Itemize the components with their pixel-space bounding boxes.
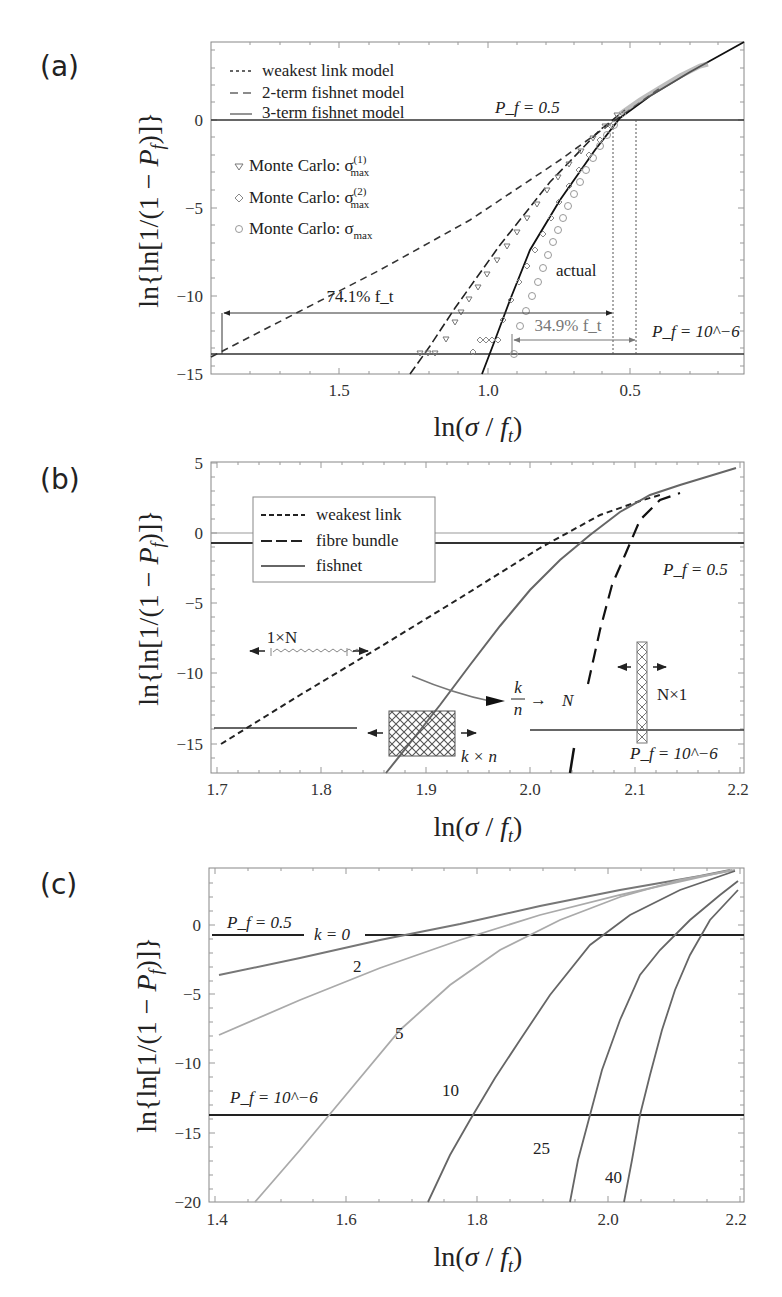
annotation-pf-small-c: P_f = 10^−6 xyxy=(229,1088,318,1107)
label-Nx1: N×1 xyxy=(657,685,687,704)
ylabel-b: ln{ln[1/(1 − Pf)]} xyxy=(133,510,168,705)
ytick-b-m10: −10 xyxy=(176,664,203,683)
xlabel-b: ln(σ / ft) xyxy=(434,811,523,846)
ytick-c-m20: −20 xyxy=(174,1193,201,1212)
mesh-kxn-diagram: k × n xyxy=(368,711,497,766)
series-c-k40 xyxy=(624,890,738,1202)
plot-b: 5 0 −5 −10 −15 1.7 1.8 1.9 2.0 2.1 2.2 w… xyxy=(133,454,749,846)
xtick-c-1.8: 1.8 xyxy=(466,1210,487,1229)
xtick-b-2.2: 2.2 xyxy=(727,780,748,799)
arrowhead-icon xyxy=(486,696,505,706)
ytick-c-m15: −15 xyxy=(174,1124,201,1143)
legend-b-fishnet: fishnet xyxy=(316,556,363,575)
series-c-k2 xyxy=(219,870,732,1035)
xtick-b-2.0: 2.0 xyxy=(519,780,540,799)
legend-triangle-icon xyxy=(235,164,243,170)
xtick-b-2.1: 2.1 xyxy=(624,780,645,799)
chain-icon xyxy=(273,649,361,652)
ylabel-c: ln{ln[1/(1 − Pf)]} xyxy=(131,937,166,1132)
legend-3term: 3-term fishnet model xyxy=(262,103,405,122)
curved-arrow xyxy=(412,676,490,701)
legend-b-fibre-bundle: fibre bundle xyxy=(316,531,399,550)
legend-b: weakest link fibre bundle fishnet xyxy=(253,497,435,582)
ytick-b-5: 5 xyxy=(195,454,204,473)
plot-c: 0 −5 −10 −15 −20 1.4 1.6 1.8 2.0 2.2 P_f… xyxy=(131,868,747,1276)
ytick-c-0: 0 xyxy=(193,916,202,935)
xlabel-c: ln(σ / ft) xyxy=(434,1241,523,1276)
mesh-icon xyxy=(389,711,455,756)
curve-label-k25: 25 xyxy=(533,1139,550,1158)
curve-label-k0: k = 0 xyxy=(314,925,351,944)
chain-1xN-diagram: 1×N xyxy=(250,628,368,656)
series-c-k25 xyxy=(570,881,738,1202)
ytick-a-m10: −10 xyxy=(176,287,203,306)
ytick-b-0: 0 xyxy=(195,524,204,543)
bundle-Nx1-diagram: N×1 xyxy=(618,642,687,743)
ytick-a-m5: −5 xyxy=(185,199,203,218)
plot-a: 0 −5 −10 −15 1.5 1.0 0.5 xyxy=(133,42,744,446)
series-mc-cluster xyxy=(620,64,708,114)
label-limit-arrow: → xyxy=(530,690,547,709)
legend-mc-sigmamax: Monte Carlo: σmax xyxy=(249,219,373,241)
xtick-c-1.4: 1.4 xyxy=(206,1210,228,1229)
series-c-k5 xyxy=(255,870,735,1202)
curve-label-k5: 5 xyxy=(395,1024,404,1043)
legend-b-weakest-link: weakest link xyxy=(316,505,402,524)
xlabel-a: ln(σ / ft) xyxy=(434,411,523,446)
xtick-a-1.0: 1.0 xyxy=(477,381,498,400)
xtick-a-1.5: 1.5 xyxy=(328,381,349,400)
xtick-b-1.7: 1.7 xyxy=(206,780,228,799)
label-n: n xyxy=(514,700,523,719)
curve-label-k2: 2 xyxy=(353,957,362,976)
ytick-b-m5: −5 xyxy=(185,594,203,613)
xtick-c-1.6: 1.6 xyxy=(335,1210,356,1229)
label-kxn: k × n xyxy=(461,747,497,766)
legend-mc-sigma1: Monte Carlo: σ(1)max xyxy=(249,153,370,178)
annotation-actual: actual xyxy=(556,261,597,280)
legend-a: weakest link model 2-term fishnet model … xyxy=(230,61,405,241)
ytick-a-0: 0 xyxy=(195,111,204,130)
xtick-c-2.2: 2.2 xyxy=(725,1210,746,1229)
legend-mc-sigma2: Monte Carlo: σ(2)max xyxy=(249,185,370,210)
ylabel-a: ln{ln[1/(1 − Pf)]} xyxy=(133,112,168,307)
figure-canvas: 0 −5 −10 −15 1.5 1.0 0.5 xyxy=(0,0,782,1297)
legend-weakest-link: weakest link model xyxy=(262,61,394,80)
ytick-c-m5: −5 xyxy=(183,985,201,1004)
annotation-74pct: 74.1% f_t xyxy=(326,287,393,306)
ytick-b-m15: −15 xyxy=(176,735,203,754)
ytick-c-m10: −10 xyxy=(174,1054,201,1073)
xtick-b-1.9: 1.9 xyxy=(415,780,436,799)
legend-2term: 2-term fishnet model xyxy=(262,83,405,102)
label-1xN: 1×N xyxy=(267,628,297,647)
curve-label-k10: 10 xyxy=(442,1081,459,1100)
annotation-pf-half-b: P_f = 0.5 xyxy=(662,560,728,579)
annotation-pf-small-b: P_f = 10^−6 xyxy=(629,744,718,763)
label-N: N xyxy=(561,691,575,710)
annotation-34pct: 34.9% f_t xyxy=(534,316,601,335)
label-k: k xyxy=(514,678,522,697)
legend-circle-icon xyxy=(236,226,243,233)
series-b-fibre-bundle xyxy=(588,493,680,684)
annotation-pf-half-a: P_f = 0.5 xyxy=(494,98,560,117)
legend-diamond-icon xyxy=(235,194,243,202)
series-b-fibre-bundle-tail xyxy=(570,748,574,773)
curve-label-k40: 40 xyxy=(605,1168,622,1187)
ytick-a-m15: −15 xyxy=(176,365,203,384)
xtick-b-1.8: 1.8 xyxy=(310,780,331,799)
annotation-pf-half-c: P_f = 0.5 xyxy=(226,913,292,932)
xtick-a-0.5: 0.5 xyxy=(619,381,640,400)
xtick-c-2.0: 2.0 xyxy=(597,1210,618,1229)
annotation-pf-small-a: P_f = 10^−6 xyxy=(651,322,740,341)
